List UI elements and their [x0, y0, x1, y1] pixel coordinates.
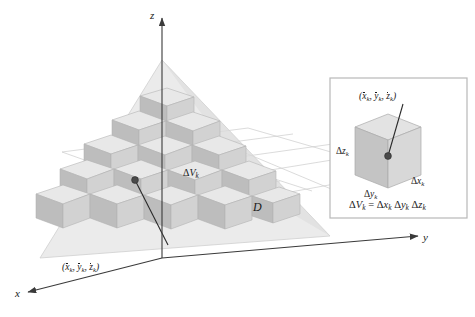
- inset-panel: [0, 0, 475, 317]
- f-t3-sub: k: [422, 203, 425, 212]
- f-lhs-delta: Δ: [349, 199, 356, 210]
- inset-paren-close: ): [393, 91, 396, 101]
- delta-x-k-label: Δxk: [411, 177, 424, 188]
- f-t2-delta: Δ: [394, 199, 401, 210]
- triple-integral-figure: z y x D ΔVk (xk, yk, zk) (xk, yk, zk) Δz…: [0, 0, 475, 317]
- x-k-sub: k: [421, 180, 424, 187]
- z-k-sub: k: [346, 150, 349, 157]
- inset-point-label: (xk, yk, zk): [359, 92, 396, 103]
- delta-z-k-label: Δzk: [336, 147, 349, 158]
- volume-formula: ΔVk = Δxk Δyk Δzk: [349, 200, 426, 212]
